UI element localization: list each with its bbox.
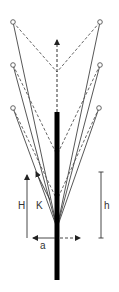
node-circle-icon (11, 106, 16, 111)
node-circle-icon (97, 106, 102, 111)
node-circle-icon (11, 20, 16, 25)
label-h: h (104, 200, 110, 211)
h-height-bracket (99, 172, 104, 238)
node-circle-icon (98, 63, 103, 68)
label-a: a (40, 240, 46, 251)
node-circle-icon (98, 20, 103, 25)
label-H: H (18, 200, 25, 211)
tree-branching-diagram: H K a h (0, 0, 119, 292)
label-K: K (36, 200, 43, 211)
node-circle-icon (11, 63, 16, 68)
main-stem (55, 112, 60, 280)
